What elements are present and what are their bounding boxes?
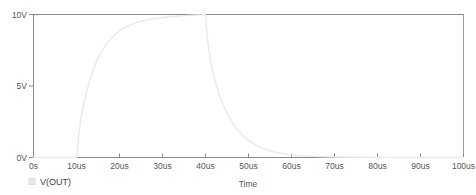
x-tick-label-6: 60us [282,161,300,171]
x-tick-label-1: 10us [67,161,85,171]
y-axis-ticks: 10V 5V 0V [12,10,33,163]
legend-color-swatch [29,179,35,185]
x-axis-tick-labels: 0s10us20us30us40us50us60us70us80us90us10… [29,161,475,171]
legend[interactable]: V(OUT) [29,177,71,187]
y-tick-label-0v: 0V [17,153,28,163]
plot-background [33,14,464,158]
y-tick-label-10v: 10V [12,10,27,20]
waveform-plot-panel[interactable]: 10V 5V 0V 0s10us20us30us40us50us60us70us… [0,0,476,195]
x-tick-label-3: 30us [153,161,171,171]
x-axis-title: Time [239,179,258,189]
x-tick-label-8: 80us [368,161,386,171]
x-tick-label-5: 50us [239,161,257,171]
transient-plot[interactable]: 10V 5V 0V 0s10us20us30us40us50us60us70us… [0,0,476,195]
legend-label-v-out[interactable]: V(OUT) [40,177,71,187]
x-tick-label-0: 0s [29,161,38,171]
x-tick-label-4: 40us [196,161,214,171]
x-tick-label-2: 20us [110,161,128,171]
y-tick-label-5v: 5V [17,81,28,91]
x-tick-label-9: 90us [411,161,429,171]
x-tick-label-10: 100us [452,161,475,171]
x-tick-label-7: 70us [325,161,343,171]
